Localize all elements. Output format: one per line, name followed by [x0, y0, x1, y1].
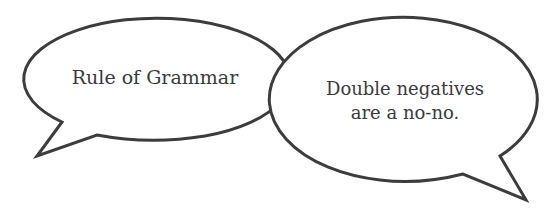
left-bubble-text: Rule of Grammar [50, 66, 260, 88]
right-bubble-line-1: Double negatives [290, 77, 520, 101]
right-bubble-line-2: are a no-no. [290, 101, 520, 125]
right-bubble-text: Double negatives are a no-no. [290, 77, 520, 125]
